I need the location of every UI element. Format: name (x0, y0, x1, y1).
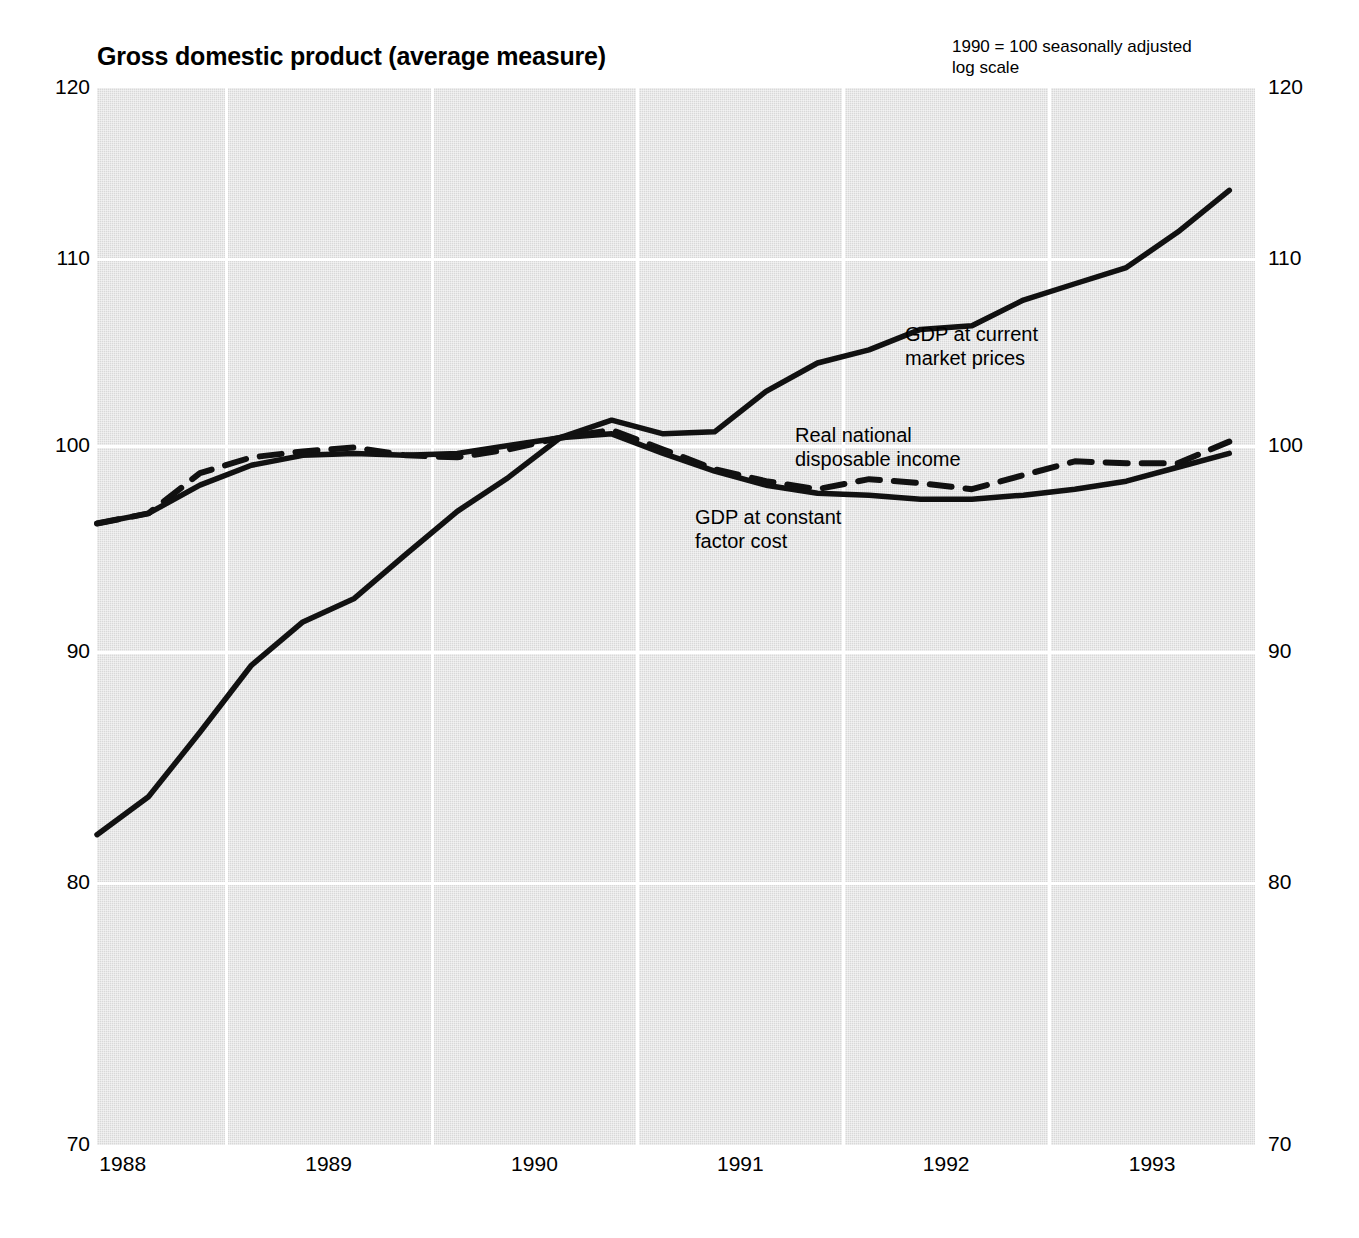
x-axis-tick-label: 1992 (886, 1152, 1006, 1176)
y-axis-tick-label: 90 (20, 639, 90, 663)
y-axis-tick-label: 110 (20, 246, 90, 270)
y-axis-tick-label: 100 (1268, 433, 1338, 457)
annotation-gdp-constant-line1: GDP at constant (695, 505, 841, 529)
y-axis-tick-label: 120 (1268, 75, 1338, 99)
y-axis-tick-label: 70 (1268, 1132, 1338, 1156)
annotation-gdp-current-line1: GDP at current (905, 322, 1038, 346)
y-axis-tick-label: 120 (20, 75, 90, 99)
y-axis-tick-label: 80 (1268, 870, 1338, 894)
y-axis-tick-label: 80 (20, 870, 90, 894)
y-axis-tick-label: 90 (1268, 639, 1338, 663)
annotation-gdp-current: GDP at current market prices (905, 322, 1038, 370)
series-line-gdp-at-current-market-prices (97, 190, 1229, 834)
x-axis-tick-label: 1990 (474, 1152, 594, 1176)
y-axis-tick-label: 110 (1268, 246, 1338, 270)
annotation-rndi-line1: Real national (795, 423, 961, 447)
series-line-real-national-disposable-income (97, 430, 1229, 524)
annotation-rndi-line2: disposable income (795, 447, 961, 471)
chart-page: Gross domestic product (average measure)… (0, 0, 1359, 1238)
annotation-gdp-current-line2: market prices (905, 346, 1038, 370)
x-axis-tick-label: 1988 (63, 1152, 183, 1176)
annotation-gdp-constant: GDP at constant factor cost (695, 505, 841, 553)
x-axis-tick-label: 1989 (269, 1152, 389, 1176)
series-lines (0, 0, 1359, 1238)
y-axis-tick-label: 100 (20, 433, 90, 457)
annotation-rndi: Real national disposable income (795, 423, 961, 471)
x-axis-tick-label: 1993 (1092, 1152, 1212, 1176)
annotation-gdp-constant-line2: factor cost (695, 529, 841, 553)
x-axis-tick-label: 1991 (680, 1152, 800, 1176)
